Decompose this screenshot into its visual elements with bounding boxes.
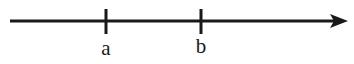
tick-label-b: b: [186, 36, 216, 57]
number-line-graphic: [0, 0, 354, 64]
number-line-figure: a b: [0, 0, 354, 64]
tick-label-a: a: [91, 38, 121, 59]
